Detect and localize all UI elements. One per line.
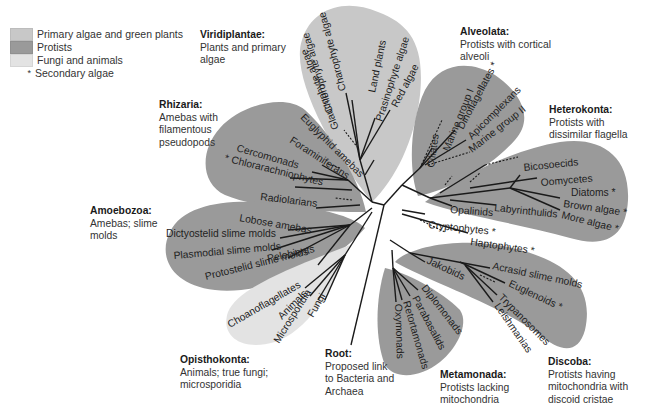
- group-title: Rhizaria:: [159, 99, 251, 112]
- group-title: Amoebozoa:: [90, 205, 160, 218]
- legend-label: Protists: [37, 41, 72, 54]
- group-label-heterokonta: Heterokonta: Protists with dissimilar fl…: [549, 104, 645, 142]
- swatch-protists: [10, 41, 33, 54]
- legend-item-secondary-algae: * Secondary algae: [10, 67, 183, 80]
- group-desc: Protists having mitochondria with discoi…: [548, 369, 628, 405]
- swatch-primary-algae: [10, 28, 33, 41]
- group-desc: Proposed link to Bacteria and Archaea: [325, 361, 394, 397]
- legend-item-fungi-animals: Fungi and animals: [10, 54, 183, 67]
- taxon-opalinids: Opalinids: [450, 204, 494, 218]
- group-label-root: Root: Proposed link to Bacteria and Arch…: [325, 348, 395, 398]
- legend: Primary algae and green plants Protists …: [10, 28, 183, 80]
- taxon-diatoms: Diatoms *: [571, 187, 616, 198]
- legend-label: Primary algae and green plants: [37, 28, 183, 41]
- group-label-metamonada: Metamonada: Protists lacking mitochondri…: [440, 369, 530, 407]
- swatch-fungi-animals: [10, 54, 33, 67]
- group-desc: Animals; true fungi; microsporidia: [180, 367, 268, 391]
- group-label-opisthokonta: Opisthokonta: Animals; true fungi; micro…: [180, 354, 290, 392]
- group-title: Root:: [325, 348, 395, 361]
- group-title: Alveolata:: [460, 26, 560, 39]
- legend-item-protists: Protists: [10, 41, 183, 54]
- star-icon: *: [10, 67, 31, 80]
- taxon-cryptophytes: Cryptophytes *: [428, 219, 496, 237]
- group-title: Opisthokonta:: [180, 354, 290, 367]
- group-label-alveolata: Alveolata: Protists with cortical alveol…: [460, 26, 560, 64]
- group-title: Heterokonta:: [549, 104, 645, 117]
- taxon-dictyostelid-slime-molds: Dictyostelid slime molds: [166, 228, 276, 239]
- group-desc: Protists with cortical alveoli: [460, 39, 551, 63]
- legend-label: Fungi and animals: [37, 54, 123, 67]
- group-desc: Plants and primary algae: [200, 42, 286, 66]
- group-title: Discoba:: [548, 356, 645, 369]
- legend-label: Secondary algae: [35, 67, 114, 80]
- group-desc: Amebas; slime molds: [90, 218, 158, 242]
- group-title: Metamonada:: [440, 369, 530, 382]
- group-label-amoebozoa: Amoebozoa: Amebas; slime molds: [90, 205, 160, 243]
- group-label-viridiplantae: Viridiplantae: Plants and primary algae: [200, 29, 310, 67]
- group-desc: Protists with dissimilar flagella: [549, 117, 627, 141]
- group-label-rhizaria: Rhizaria: Amebas with filamentous pseudo…: [159, 99, 251, 149]
- group-title: Viridiplantae:: [200, 29, 310, 42]
- legend-item-primary-algae: Primary algae and green plants: [10, 28, 183, 41]
- eukaryote-tree-diagram: Charophyte algae Chlorophyte algae Land …: [0, 0, 645, 413]
- group-desc: Amebas with filamentous pseudopods: [159, 112, 218, 148]
- group-label-discoba: Discoba: Protists having mitochondria wi…: [548, 356, 645, 406]
- group-desc: Protists lacking mitochondria: [440, 382, 509, 406]
